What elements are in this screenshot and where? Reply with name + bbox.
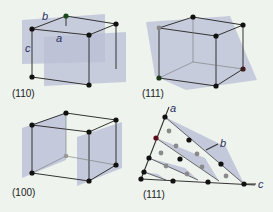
plane-edges	[144, 117, 244, 184]
panel-100: (100)	[12, 110, 122, 198]
axis-label-b: b	[42, 10, 48, 22]
axis-label-a: a	[170, 102, 176, 114]
miller-index-label: (110)	[12, 88, 35, 99]
figure-canvas: b a c (110) (111	[0, 0, 273, 212]
plane-left	[22, 113, 66, 178]
axis-label-b: b	[220, 137, 226, 149]
stacked-planes	[144, 117, 244, 184]
axis-label-a: a	[56, 32, 62, 44]
panel-111-cube: (111)	[142, 14, 257, 99]
miller-index-label: (111)	[143, 189, 165, 200]
panel-111-stacked: a b c (111)	[138, 102, 264, 200]
axis-label-c: c	[25, 42, 31, 54]
axis-label-c: c	[258, 178, 264, 190]
miller-index-label: (100)	[12, 187, 35, 198]
miller-index-label: (111)	[142, 88, 164, 99]
crystal-planes-figure: b a c (110) (111	[0, 0, 273, 212]
panel-110: b a c (110)	[12, 10, 126, 99]
